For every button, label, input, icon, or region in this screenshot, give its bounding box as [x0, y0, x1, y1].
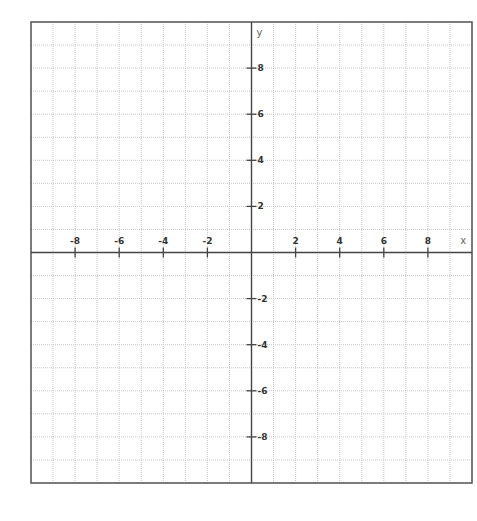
y-tick-label: 4: [258, 155, 264, 165]
x-tick-label: 4: [337, 236, 343, 246]
y-tick-label: -6: [258, 386, 268, 396]
y-tick-label: 8: [258, 63, 264, 73]
x-axis-label: x: [460, 235, 466, 246]
y-tick-label: -2: [258, 294, 268, 304]
x-tick-label: 6: [381, 236, 387, 246]
coordinate-plane: -8-6-4-224688642-2-4-6-8 x y: [0, 0, 477, 521]
y-axis-label: y: [257, 27, 263, 38]
x-tick-label: 8: [425, 236, 431, 246]
y-tick-label: 2: [258, 201, 264, 211]
x-tick-label: -6: [114, 236, 124, 246]
x-tick-label: 2: [292, 236, 298, 246]
x-tick-label: -2: [202, 236, 212, 246]
x-tick-label: -4: [158, 236, 168, 246]
y-tick-label: 6: [258, 109, 264, 119]
y-tick-label: -4: [258, 340, 268, 350]
x-tick-label: -8: [70, 236, 80, 246]
y-tick-label: -8: [258, 432, 268, 442]
